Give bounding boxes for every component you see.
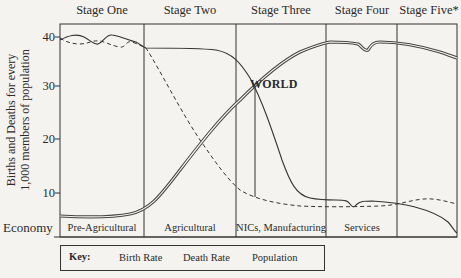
demographic-transition-chart xyxy=(0,0,461,278)
economy-services: Services xyxy=(344,222,380,233)
economy-title: Economy xyxy=(3,220,53,236)
economy-agricultural: Agricultural xyxy=(164,222,215,233)
y-tick-30: 30 xyxy=(43,79,56,94)
y-axis-title: Births and Deaths for every 1,000 member… xyxy=(4,30,32,210)
y-tick-10: 10 xyxy=(43,186,56,201)
legend-population: Population xyxy=(252,246,296,270)
legend-birth-label: Birth Rate xyxy=(119,252,162,263)
legend-population-label: Population xyxy=(252,252,298,263)
legend: Key: Birth Rate Death Rate Population xyxy=(60,245,325,271)
stage-three-label: Stage Three xyxy=(251,3,311,18)
y-tick-40: 40 xyxy=(43,30,56,45)
stage-four-label: Stage Four xyxy=(335,3,390,18)
stage-five-label: Stage Five* xyxy=(399,3,458,18)
stage-one-label: Stage One xyxy=(76,3,128,18)
legend-birth-rate: Birth Rate xyxy=(119,246,159,270)
economy-manufacturing: NICs, Manufacturing xyxy=(236,222,326,233)
legend-death-label: Death Rate xyxy=(183,252,230,263)
world-annotation: WORLD xyxy=(250,77,298,92)
y-axis-title-line2: 1,000 members of population xyxy=(18,30,32,210)
legend-death-rate: Death Rate xyxy=(183,246,227,270)
stage-two-label: Stage Two xyxy=(164,3,217,18)
legend-title: Key: xyxy=(69,251,91,262)
y-tick-20: 20 xyxy=(43,132,56,147)
y-axis-title-line1: Births and Deaths for every xyxy=(4,30,18,210)
economy-pre-agricultural: Pre-Agricultural xyxy=(68,222,137,233)
